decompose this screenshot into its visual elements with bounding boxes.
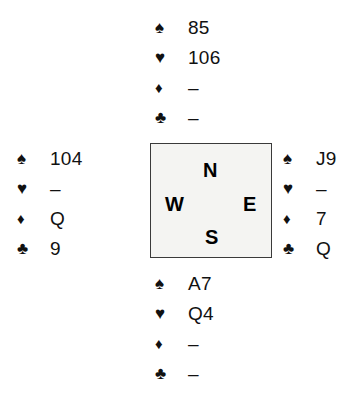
heart-icon: ♥	[155, 305, 175, 322]
hand-west-diamonds-row: ♦ Q	[17, 203, 83, 233]
diamond-icon: ♦	[283, 211, 303, 226]
hand-east-spades-row: ♠ J9	[283, 143, 337, 173]
hand-north-spades-row: ♠ 85	[155, 12, 221, 42]
hand-west-hearts-ranks: –	[50, 179, 61, 198]
hand-east-spades-ranks: J9	[316, 149, 337, 168]
heart-icon: ♥	[155, 49, 175, 66]
hand-south-clubs-ranks: –	[188, 364, 199, 383]
compass-north-label: N	[203, 160, 217, 180]
heart-icon: ♥	[283, 180, 303, 197]
spade-icon: ♠	[155, 19, 175, 36]
hand-north-hearts-row: ♥ 106	[155, 42, 221, 72]
hand-north-diamonds-ranks: –	[188, 78, 199, 97]
bridge-deal-diagram: ♠ 85 ♥ 106 ♦ – ♣ – ♠ 104 ♥ – ♦ Q ♣	[0, 0, 364, 406]
spade-icon: ♠	[283, 150, 303, 167]
club-icon: ♣	[17, 240, 37, 257]
club-icon: ♣	[155, 365, 175, 382]
compass-south-label: S	[205, 227, 218, 247]
club-icon: ♣	[283, 240, 303, 257]
hand-west-spades-row: ♠ 104	[17, 143, 83, 173]
hand-west: ♠ 104 ♥ – ♦ Q ♣ 9	[17, 143, 83, 263]
hand-south-diamonds-ranks: –	[188, 334, 199, 353]
hand-east-diamonds-ranks: 7	[316, 209, 327, 228]
diamond-icon: ♦	[17, 211, 37, 226]
heart-icon: ♥	[17, 180, 37, 197]
compass-east-label: E	[243, 194, 256, 214]
hand-south-hearts-row: ♥ Q4	[155, 298, 214, 328]
hand-east-diamonds-row: ♦ 7	[283, 203, 337, 233]
hand-west-clubs-ranks: 9	[50, 239, 61, 258]
hand-west-clubs-row: ♣ 9	[17, 233, 83, 263]
hand-east-hearts-ranks: –	[316, 179, 327, 198]
hand-south-clubs-row: ♣ –	[155, 358, 214, 388]
hand-south-hearts-ranks: Q4	[188, 304, 214, 323]
hand-north-clubs-row: ♣ –	[155, 102, 221, 132]
hand-north-diamonds-row: ♦ –	[155, 72, 221, 102]
hand-south-spades-ranks: A7	[188, 274, 212, 293]
spade-icon: ♠	[17, 150, 37, 167]
hand-east-clubs-ranks: Q	[316, 239, 331, 258]
hand-north-spades-ranks: 85	[188, 18, 210, 37]
diamond-icon: ♦	[155, 80, 175, 95]
hand-east: ♠ J9 ♥ – ♦ 7 ♣ Q	[283, 143, 337, 263]
spade-icon: ♠	[155, 275, 175, 292]
hand-south-spades-row: ♠ A7	[155, 268, 214, 298]
compass-west-label: W	[165, 194, 184, 214]
hand-west-spades-ranks: 104	[50, 149, 83, 168]
hand-south: ♠ A7 ♥ Q4 ♦ – ♣ –	[155, 268, 214, 388]
hand-east-hearts-row: ♥ –	[283, 173, 337, 203]
compass-box: N W E S	[150, 143, 272, 258]
hand-north-clubs-ranks: –	[188, 108, 199, 127]
diamond-icon: ♦	[155, 336, 175, 351]
hand-south-diamonds-row: ♦ –	[155, 328, 214, 358]
hand-north-hearts-ranks: 106	[188, 48, 221, 67]
hand-west-diamonds-ranks: Q	[50, 209, 65, 228]
hand-east-clubs-row: ♣ Q	[283, 233, 337, 263]
club-icon: ♣	[155, 109, 175, 126]
hand-west-hearts-row: ♥ –	[17, 173, 83, 203]
hand-north: ♠ 85 ♥ 106 ♦ – ♣ –	[155, 12, 221, 132]
